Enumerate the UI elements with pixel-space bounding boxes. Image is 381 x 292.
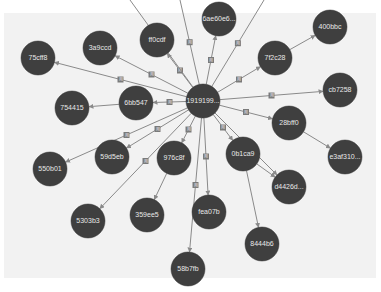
graph-edge[interactable] bbox=[290, 35, 315, 49]
node-label: 976c8f bbox=[163, 154, 184, 161]
graph-node[interactable]: 28bff0 bbox=[272, 106, 306, 140]
graph-node[interactable]: 59d5eb bbox=[95, 140, 129, 174]
graph-node[interactable]: 976c8f bbox=[157, 141, 191, 175]
edge-label-text: 用 bbox=[194, 183, 198, 188]
graph-node[interactable]: ff0cdf bbox=[140, 23, 174, 57]
graph-node[interactable]: 550b01 bbox=[33, 152, 67, 186]
edge-label: 用 bbox=[143, 158, 149, 164]
edge-label-text: 用 bbox=[119, 77, 123, 82]
graph-node[interactable]: 0b1ca9 bbox=[226, 137, 260, 171]
edge-label-text: 用 bbox=[187, 127, 191, 132]
edge-label-text: 用 bbox=[204, 154, 208, 159]
edge-label: 用 bbox=[186, 127, 192, 133]
edge-label-text: 用 bbox=[156, 127, 160, 132]
edge-label: 用 bbox=[203, 154, 209, 160]
edge-label: 用 bbox=[118, 77, 124, 83]
edge-label: 用 bbox=[269, 93, 275, 99]
graph-node[interactable]: 8444b6 bbox=[245, 227, 279, 261]
graph-node[interactable]: 3a9ccd bbox=[83, 31, 117, 65]
graph-node[interactable]: d4426d... bbox=[272, 170, 306, 204]
graph-node-center[interactable]: 1919199... bbox=[186, 84, 220, 118]
edge-label: 用 bbox=[243, 109, 249, 115]
node-label: 75cff8 bbox=[29, 54, 48, 61]
edge-label-text: 用 bbox=[125, 133, 129, 138]
edge-label-text: 用 bbox=[188, 40, 192, 45]
edge-label-text: 用 bbox=[221, 125, 225, 130]
node-label: 359ee5 bbox=[135, 211, 158, 218]
edge-label-text: 用 bbox=[150, 72, 154, 77]
graph-node[interactable]: 754415 bbox=[55, 91, 89, 125]
graph-node[interactable]: 6ae60e6... bbox=[202, 2, 236, 36]
node-label: 5303b3 bbox=[76, 217, 99, 224]
graph-canvas[interactable]: 用用用用用用用用用用用用用用用用用用用 1919199...6ae60e6...… bbox=[4, 13, 376, 278]
edge-label: 用 bbox=[236, 77, 242, 83]
node-label: ff0cdf bbox=[149, 36, 166, 43]
graph-node[interactable]: 75cff8 bbox=[21, 41, 55, 75]
node-label: 754415 bbox=[60, 104, 83, 111]
graph-node[interactable]: 400bbc bbox=[313, 10, 347, 44]
node-label: 0b1ca9 bbox=[232, 150, 255, 157]
graph-node[interactable]: cb7258 bbox=[323, 73, 357, 107]
graph-node[interactable]: 58b7fb bbox=[171, 252, 205, 286]
graph-node[interactable]: fea07b bbox=[192, 195, 226, 229]
edge-label: 用 bbox=[220, 125, 226, 131]
node-label: d4426d... bbox=[274, 183, 303, 190]
node-label: 6bb547 bbox=[124, 99, 147, 106]
node-label: 6ae60e6... bbox=[202, 15, 235, 22]
edge-label: 用 bbox=[155, 126, 161, 132]
graph-node[interactable]: 7f2c28 bbox=[258, 41, 292, 75]
edge-label: 用 bbox=[193, 182, 199, 188]
node-label: 58b7fb bbox=[177, 265, 199, 272]
edge-label-text: 用 bbox=[237, 77, 241, 82]
node-label: 400bbc bbox=[319, 23, 342, 30]
node-label: cb7258 bbox=[329, 86, 352, 93]
node-label: fea07b bbox=[198, 208, 220, 215]
edge-label-text: 用 bbox=[209, 58, 213, 63]
edge-label: 用 bbox=[149, 72, 155, 78]
edge-label: 用 bbox=[124, 132, 130, 138]
graph-edge[interactable] bbox=[89, 104, 119, 106]
node-label: 1919199... bbox=[186, 97, 219, 104]
graph-node[interactable]: e3af310... bbox=[328, 140, 362, 174]
edge-label: 用 bbox=[187, 39, 193, 45]
edge-label: 用 bbox=[167, 99, 173, 105]
node-label: 8444b6 bbox=[250, 240, 273, 247]
node-label: 7f2c28 bbox=[264, 54, 285, 61]
graph-node[interactable]: 6bb547 bbox=[119, 86, 153, 120]
edge-label: 用 bbox=[208, 57, 214, 63]
node-label: 550b01 bbox=[38, 165, 61, 172]
edge-label: 用 bbox=[235, 40, 241, 46]
edge-label-text: 用 bbox=[168, 100, 172, 105]
node-label: 28bff0 bbox=[279, 119, 298, 126]
edge-label-text: 用 bbox=[236, 41, 240, 46]
graph-edge[interactable] bbox=[304, 132, 331, 148]
edge-label-text: 用 bbox=[144, 159, 148, 164]
node-label: 59d5eb bbox=[100, 153, 123, 160]
edge-label-text: 用 bbox=[244, 110, 248, 115]
graph-edge[interactable] bbox=[154, 173, 166, 199]
node-label: e3af310... bbox=[329, 153, 360, 160]
node-label: 3a9ccd bbox=[89, 44, 112, 51]
graph-node[interactable]: 5303b3 bbox=[71, 204, 105, 238]
edge-label-text: 用 bbox=[270, 93, 274, 98]
graph-edge[interactable] bbox=[247, 171, 259, 228]
graph-svg: 用用用用用用用用用用用用用用用用用用用 1919199...6ae60e6...… bbox=[0, 0, 381, 292]
graph-node[interactable]: 359ee5 bbox=[130, 198, 164, 232]
